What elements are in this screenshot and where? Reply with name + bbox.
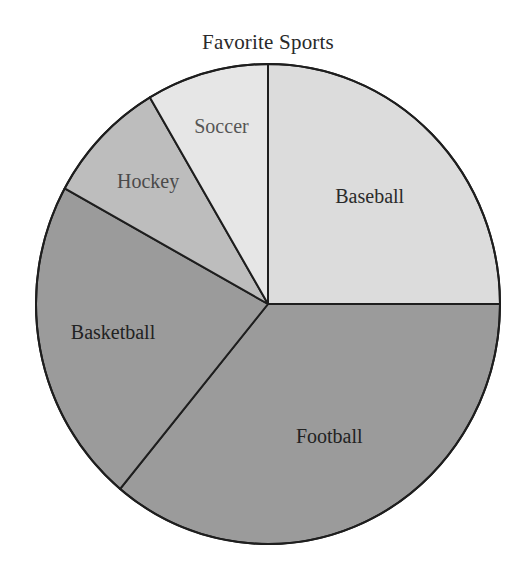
slice-label-hockey: Hockey — [117, 170, 179, 193]
pie-slices — [36, 64, 500, 544]
slice-label-football: Football — [296, 425, 363, 447]
slice-label-baseball: Baseball — [335, 185, 404, 207]
pie-slice-baseball — [268, 64, 500, 304]
slice-label-soccer: Soccer — [194, 115, 249, 137]
pie-chart: BaseballFootballBasketballHockeySoccer — [0, 0, 522, 567]
slice-label-basketball: Basketball — [71, 321, 156, 343]
